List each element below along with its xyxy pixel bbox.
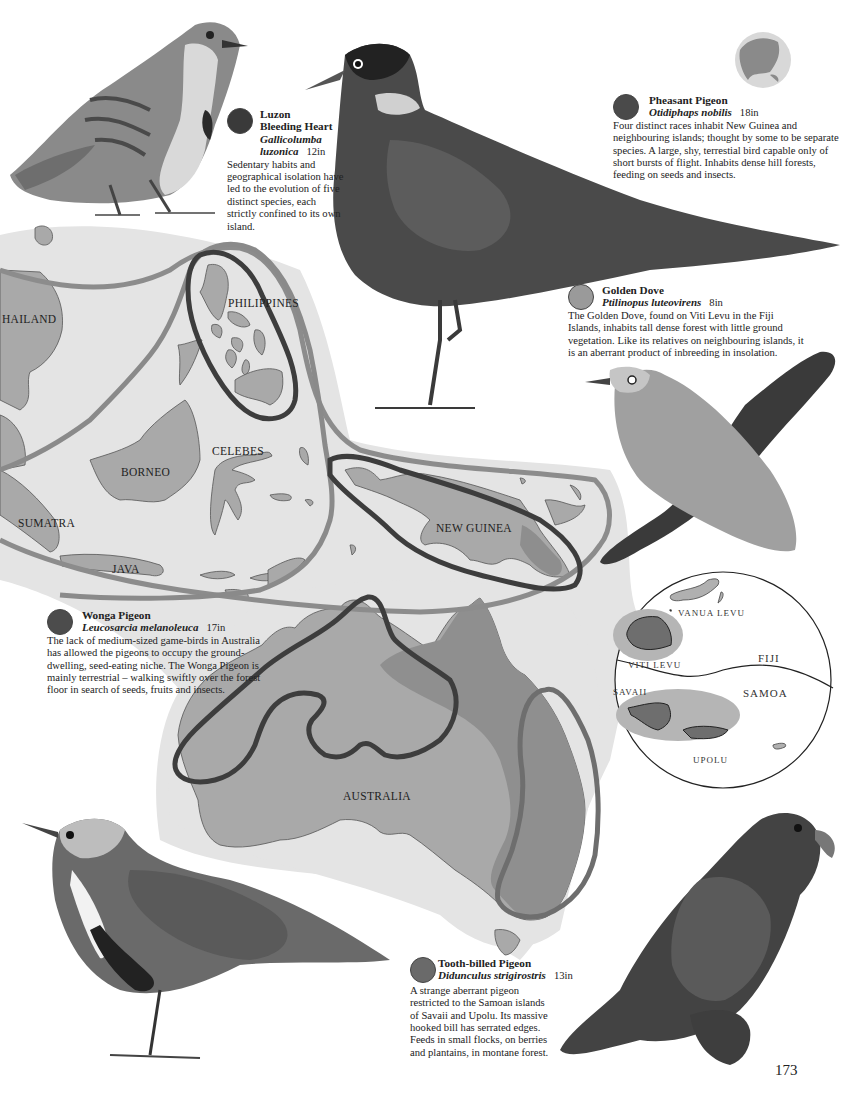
map-label-java: JAVA	[112, 563, 140, 575]
species-scientific-name: Gallicolumba	[260, 133, 347, 145]
species-description: Four distinct races inhabit New Guinea a…	[613, 120, 848, 182]
species-common-name: Tooth-billed Pigeon	[438, 957, 575, 969]
map-label-philippines: PHILIPPINES	[228, 297, 299, 309]
caption-pheasant-pigeon: Pheasant Pigeon Otidiphaps nobilis18in F…	[613, 94, 848, 182]
species-marker-icon	[568, 284, 594, 310]
species-scientific-name: Leucosarcia melanoleuca	[82, 621, 198, 633]
species-size: 17in	[206, 622, 225, 633]
map-label-sumatra: SUMATRA	[18, 517, 75, 529]
species-common-name: Pheasant Pigeon	[649, 94, 848, 106]
inset-label-upolu: UPOLU	[693, 755, 728, 765]
map-label-celebes: CELEBES	[212, 445, 264, 457]
species-scientific-name: Didunculus strigirostris	[438, 969, 546, 981]
map-label-borneo: BORNEO	[121, 466, 170, 478]
caption-wonga-pigeon: Wonga Pigeon Leucosarcia melanoleuca17in…	[47, 609, 262, 697]
species-description: The Golden Dove, found on Viti Levu in t…	[568, 310, 808, 360]
species-description: Sedentary habits and geographical isolat…	[227, 159, 347, 233]
species-marker-icon	[47, 609, 73, 635]
map-label-australia: AUSTRALIA	[343, 790, 411, 802]
species-common-name: Luzon	[260, 108, 347, 120]
species-common-name: Wonga Pigeon	[82, 609, 262, 621]
inset-label-savaii: SAVAII	[613, 687, 647, 697]
species-size: 18in	[740, 107, 759, 118]
map-label-thailand: HAILAND	[2, 313, 56, 325]
species-marker-icon	[227, 108, 253, 134]
bird-luzon-bleeding-heart	[10, 22, 248, 215]
species-size: 12in	[307, 146, 326, 157]
inset-label-vanua-levu: VANUA LEVU	[678, 608, 745, 618]
inset-label-viti-levu: VITI LEVU	[628, 660, 681, 670]
bird-tooth-billed-pigeon	[560, 813, 835, 1065]
inset-label-fiji: FIJI	[758, 652, 780, 664]
caption-luzon-bleeding-heart: Luzon Bleeding Heart Gallicolumba luzoni…	[227, 108, 347, 233]
species-common-name: Golden Dove	[602, 284, 808, 296]
caption-tooth-billed-pigeon: Tooth-billed Pigeon Didunculus strigiros…	[410, 957, 575, 1059]
species-common-name-2: Bleeding Heart	[260, 120, 347, 132]
species-size: 8in	[709, 297, 723, 308]
species-marker-icon	[613, 94, 639, 120]
species-description: A strange aberrant pigeon restricted to …	[410, 985, 550, 1059]
species-scientific-name: Otidiphaps nobilis	[649, 106, 732, 118]
bird-golden-dove	[585, 352, 835, 565]
inset-label-samoa: SAMOA	[743, 687, 788, 699]
caption-golden-dove: Golden Dove Ptilinopus luteovirens8in Th…	[568, 284, 808, 359]
locator-globe	[735, 32, 791, 88]
page-number: 173	[775, 1062, 798, 1079]
species-scientific-name: Ptilinopus luteovirens	[602, 296, 701, 308]
map-label-new-guinea: NEW GUINEA	[436, 522, 512, 534]
bird-wonga-pigeon	[22, 819, 390, 1058]
fiji-samoa-inset: VANUA LEVU VITI LEVU FIJI SAVAII SAMOA U…	[603, 570, 843, 790]
species-scientific-name-2: luzonica	[260, 145, 299, 157]
species-marker-icon	[410, 957, 436, 983]
species-size: 13in	[554, 970, 573, 981]
species-description: The lack of medium-sized game-birds in A…	[47, 635, 262, 697]
